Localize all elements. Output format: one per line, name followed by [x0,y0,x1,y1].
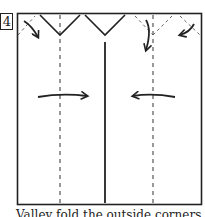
right-v-fold-line-left [135,16,153,35]
fold-right-arrow-icon [38,95,87,97]
instruction-caption: Valley fold the outside corners in [16,208,205,217]
top-left-corner-fold-line [18,16,35,35]
origami-diagram [0,0,205,217]
right-v-fold-line-right [153,16,172,35]
top-right-corner-fold-line [180,16,200,35]
corner-fold-arrow-top-left-icon [24,21,38,37]
corner-fold-arrow-top-right-icon [180,24,194,35]
center-folded-edge-v [85,15,125,35]
paper-frame [18,14,202,205]
fold-down-arrow-icon [146,20,149,50]
fold-left-arrow-icon [133,95,175,97]
